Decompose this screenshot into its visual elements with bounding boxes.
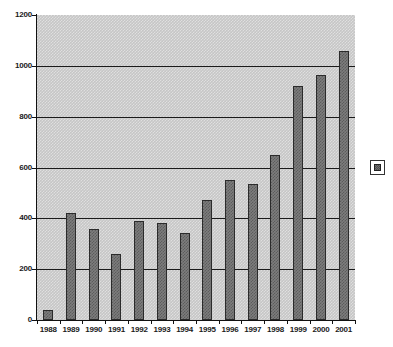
x-axis-tick-label: 1999 bbox=[287, 325, 310, 334]
bar[interactable] bbox=[293, 86, 303, 320]
bar[interactable] bbox=[111, 254, 121, 320]
bar-chart: 020040060080010001200 198819891990199119… bbox=[0, 0, 393, 347]
x-axis-tick-label: 1998 bbox=[264, 325, 287, 334]
y-axis-tick-label: 800 bbox=[4, 113, 32, 121]
x-axis-tick-label: 2000 bbox=[310, 325, 333, 334]
x-axis-tick-mark bbox=[310, 320, 311, 324]
y-axis-tick-label: 400 bbox=[4, 214, 32, 222]
bar-slot bbox=[173, 15, 196, 320]
y-axis-tick-mark bbox=[32, 66, 37, 67]
x-axis: 1988198919901991199219931994199519961997… bbox=[37, 325, 355, 343]
x-axis-tick-mark bbox=[128, 320, 129, 324]
x-axis-tick-label: 1992 bbox=[128, 325, 151, 334]
x-axis-tick-mark bbox=[287, 320, 288, 324]
legend-swatch-series bbox=[374, 164, 381, 171]
bar[interactable] bbox=[180, 233, 190, 320]
bar[interactable] bbox=[66, 213, 76, 321]
y-axis-tick-label: 1200 bbox=[4, 11, 32, 19]
x-axis-tick-mark bbox=[332, 320, 333, 324]
bar[interactable] bbox=[316, 75, 326, 320]
bar[interactable] bbox=[248, 184, 258, 320]
bar-slot bbox=[128, 15, 151, 320]
x-axis-tick-label: 1991 bbox=[105, 325, 128, 334]
bar-slot bbox=[105, 15, 128, 320]
y-axis-tick-mark bbox=[32, 117, 37, 118]
y-axis-tick-label: 0 bbox=[4, 316, 32, 324]
legend[interactable] bbox=[370, 160, 385, 175]
x-axis-tick-mark bbox=[241, 320, 242, 324]
bar[interactable] bbox=[225, 180, 235, 320]
x-axis-tick-mark bbox=[37, 320, 38, 324]
x-axis-tick-label: 1990 bbox=[82, 325, 105, 334]
plot-area bbox=[37, 15, 355, 320]
x-axis-tick-label: 1993 bbox=[151, 325, 174, 334]
bar-slot bbox=[82, 15, 105, 320]
y-axis-tick-label: 600 bbox=[4, 164, 32, 172]
x-axis-tick-label: 2001 bbox=[332, 325, 355, 334]
x-axis-tick-mark bbox=[82, 320, 83, 324]
bar-slot bbox=[287, 15, 310, 320]
bar[interactable] bbox=[202, 200, 212, 320]
y-axis-tick-mark bbox=[32, 269, 37, 270]
y-axis-tick-mark bbox=[32, 218, 37, 219]
x-axis-tick-label: 1995 bbox=[196, 325, 219, 334]
x-axis-tick-mark bbox=[196, 320, 197, 324]
x-axis-tick-label: 1997 bbox=[241, 325, 264, 334]
y-axis-tick-mark bbox=[32, 168, 37, 169]
x-axis-tick-mark bbox=[355, 320, 356, 324]
bar[interactable] bbox=[89, 229, 99, 321]
x-axis-tick-mark bbox=[60, 320, 61, 324]
x-axis-tick-label: 1988 bbox=[37, 325, 60, 334]
bar[interactable] bbox=[43, 310, 53, 320]
x-axis-tick-mark bbox=[264, 320, 265, 324]
bar-slot bbox=[310, 15, 333, 320]
bar-slot bbox=[264, 15, 287, 320]
bar[interactable] bbox=[134, 221, 144, 320]
x-axis-tick-mark bbox=[173, 320, 174, 324]
y-axis-tick-mark bbox=[32, 15, 37, 16]
x-axis-tick-mark bbox=[219, 320, 220, 324]
bar[interactable] bbox=[339, 51, 349, 320]
y-axis-tick-label: 200 bbox=[4, 265, 32, 273]
bar-slot bbox=[37, 15, 60, 320]
bar-slot bbox=[219, 15, 242, 320]
bar-slot bbox=[241, 15, 264, 320]
y-axis-tick-label: 1000 bbox=[4, 62, 32, 70]
x-axis-tick-label: 1989 bbox=[60, 325, 83, 334]
x-axis-tick-mark bbox=[105, 320, 106, 324]
bar[interactable] bbox=[270, 155, 280, 320]
bar-slot bbox=[332, 15, 355, 320]
bar-slot bbox=[196, 15, 219, 320]
x-axis-tick-label: 1994 bbox=[173, 325, 196, 334]
bar-slot bbox=[60, 15, 83, 320]
bar[interactable] bbox=[157, 223, 167, 320]
x-axis-tick-mark bbox=[151, 320, 152, 324]
bar-slot bbox=[151, 15, 174, 320]
y-axis: 020040060080010001200 bbox=[0, 0, 32, 347]
x-axis-tick-label: 1996 bbox=[219, 325, 242, 334]
